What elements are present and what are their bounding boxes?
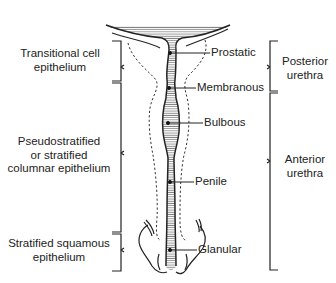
label-membranous: Membranous (197, 81, 264, 95)
label-posterior-urethra: Posterior urethra (276, 55, 334, 82)
label-line: Stratified squamous (2, 237, 116, 251)
label-line: or stratified (2, 149, 116, 163)
label-line: urethra (276, 69, 334, 83)
label-line: Transitional cell (8, 47, 112, 61)
label-anterior-urethra: Anterior urethra (276, 153, 334, 180)
label-transitional-epithelium: Transitional cell epithelium (8, 47, 112, 74)
label-squamous-epithelium: Stratified squamous epithelium (2, 237, 116, 264)
label-bulbous: Bulbous (204, 116, 246, 130)
label-line: Anterior (276, 153, 334, 167)
label-line: epithelium (2, 251, 116, 265)
label-line: columnar epithelium (2, 162, 116, 176)
urethra-diagram: Transitional cell epithelium Pseudostrat… (0, 0, 336, 283)
label-prostatic: Prostatic (211, 46, 256, 60)
label-line: urethra (276, 167, 334, 181)
label-columnar-epithelium: Pseudostratified or stratified columnar … (2, 135, 116, 176)
urethral-lumen (163, 50, 180, 270)
label-penile: Penile (195, 175, 227, 189)
label-line: epithelium (8, 61, 112, 75)
label-line: Pseudostratified (2, 135, 116, 149)
label-glanular: Glanular (198, 243, 241, 257)
label-line: Posterior (276, 55, 334, 69)
